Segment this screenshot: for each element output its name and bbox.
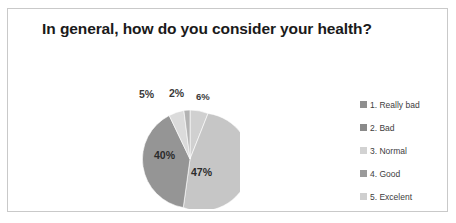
legend-swatch-icon: [360, 147, 367, 154]
legend-item-good[interactable]: 4. Good: [360, 162, 452, 185]
legend-item-really-bad[interactable]: 1. Really bad: [360, 93, 452, 116]
pie-plot-area: 5% 2% 6% 40% 47%: [118, 81, 308, 211]
pie-label-bad: 47%: [191, 166, 212, 178]
legend-label: 1. Really bad: [370, 100, 420, 110]
legend-item-excelent[interactable]: 5. Excelent: [360, 185, 452, 208]
legend-item-normal[interactable]: 3. Normal: [360, 139, 452, 162]
legend-label: 5. Excelent: [370, 192, 412, 202]
legend-swatch-icon: [360, 193, 367, 200]
chart-frame: In general, how do you consider your hea…: [7, 8, 448, 212]
pie-label-excelent: 2%: [169, 87, 184, 99]
legend-swatch-icon: [360, 170, 367, 177]
legend-item-bad[interactable]: 2. Bad: [360, 116, 452, 139]
legend-swatch-icon: [360, 124, 367, 131]
chart-title: In general, how do you consider your hea…: [22, 19, 392, 39]
pie-label-good: 5%: [139, 88, 154, 100]
legend-label: 4. Good: [370, 169, 400, 179]
legend-swatch-icon: [360, 101, 367, 108]
legend-label: 3. Normal: [370, 146, 407, 156]
pie-label-normal: 40%: [154, 149, 175, 161]
chart-legend: 1. Really bad 2. Bad 3. Normal 4. Good 5…: [360, 93, 452, 208]
pie-label-really-bad: 6%: [196, 91, 210, 102]
legend-label: 2. Bad: [370, 123, 395, 133]
